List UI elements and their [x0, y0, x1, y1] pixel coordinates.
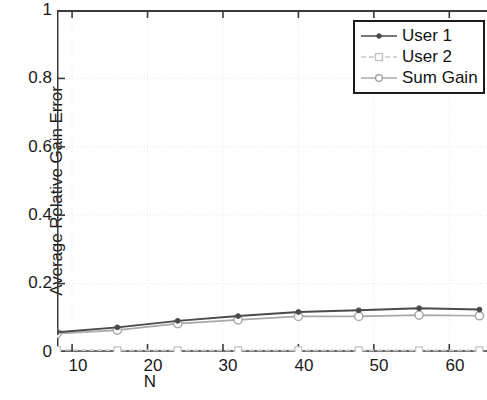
y-tick-label-0.8: 0.8 — [6, 68, 52, 88]
y-tick-label-0.4: 0.4 — [6, 205, 52, 225]
legend-label-user-1: User 1 — [399, 26, 452, 46]
data-point-user-2 — [235, 347, 242, 352]
x-tick-label-60: 60 — [433, 356, 477, 376]
data-point-user-2 — [355, 347, 362, 352]
data-point-user-1 — [417, 306, 422, 311]
legend-label-sum-gain: Sum Gain — [399, 68, 478, 88]
data-point-user-1 — [175, 318, 180, 323]
data-point-user-2 — [295, 347, 302, 352]
data-point-sum-gain — [475, 312, 483, 320]
y-axis-ticks: 1 0.8 0.6 0.4 0.2 0 — [0, 0, 52, 400]
legend-label-user-2: User 2 — [399, 47, 452, 67]
legend-swatch-user-1 — [359, 27, 399, 45]
data-point-user-1 — [115, 325, 120, 330]
data-point-user-2 — [416, 347, 423, 352]
y-tick-label-0.2: 0.2 — [6, 273, 52, 293]
x-axis-label: N — [0, 372, 300, 392]
data-point-user-2 — [114, 347, 121, 352]
legend-item-user-2: User 2 — [355, 46, 483, 67]
data-point-user-2 — [476, 347, 483, 352]
x-tick-label-50: 50 — [357, 356, 401, 376]
legend-item-user-1: User 1 — [355, 25, 483, 46]
data-point-user-1 — [477, 307, 482, 312]
y-tick-label-0.6: 0.6 — [6, 137, 52, 157]
data-point-user-2 — [57, 347, 60, 352]
data-point-user-1 — [57, 330, 59, 335]
data-point-user-1 — [356, 308, 361, 313]
data-point-sum-gain — [355, 312, 363, 320]
y-tick-label-1: 1 — [6, 0, 52, 20]
data-point-user-2 — [174, 347, 181, 352]
legend-swatch-user-2 — [359, 48, 399, 66]
data-point-user-1 — [236, 314, 241, 319]
legend-box: User 1 User 2 Sum Gain — [353, 20, 485, 94]
y-tick-label-0: 0 — [6, 342, 52, 362]
legend-item-sum-gain: Sum Gain — [355, 67, 483, 88]
data-point-sum-gain — [415, 311, 423, 319]
data-point-user-1 — [296, 310, 301, 315]
legend-swatch-sum-gain — [359, 69, 399, 87]
